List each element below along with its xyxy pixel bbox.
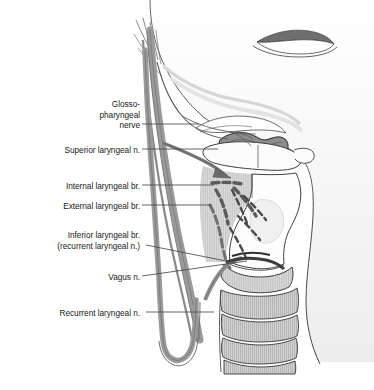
label-glossopharyngeal-nerve: Glosso- pharyngeal nerve: [57, 99, 140, 131]
laryngeal-nerve-diagram: [0, 0, 374, 390]
label-inferior-laryngeal-br: Inferior laryngeal br. (recurrent laryng…: [10, 230, 140, 251]
label-internal-laryngeal-br: Internal laryngeal br.: [17, 181, 140, 192]
thyroid-cartilage: [200, 166, 301, 293]
label-superior-laryngeal-n: Superior laryngeal n.: [16, 145, 140, 156]
figure-caption: [28, 376, 358, 383]
label-recurrent-laryngeal-n: Recurrent laryngeal n.: [12, 308, 140, 319]
label-vagus-n: Vagus n.: [85, 272, 140, 283]
label-external-laryngeal-br: External laryngeal br.: [14, 201, 140, 212]
trachea: [220, 288, 299, 374]
